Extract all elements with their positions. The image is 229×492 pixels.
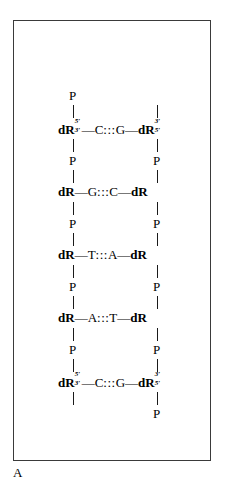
primes-left-5: 5′3′	[75, 374, 82, 387]
bond-below-pair-4-right	[157, 328, 158, 341]
bond-below-pair-3-left	[73, 265, 74, 278]
base-pair-row-2: dR — G ::: C — dR	[58, 185, 148, 199]
phosphate-right-4: P	[153, 343, 160, 356]
base-right-5: G	[116, 376, 125, 390]
phosphate-left-4: P	[69, 343, 76, 356]
base-right-2: C	[109, 185, 118, 199]
base-left-1: C	[95, 123, 104, 137]
sugar-left-1: dR5′3′	[58, 121, 82, 137]
bond-dash-right-4: —	[117, 311, 130, 325]
primes-right-5: 3′5′	[155, 374, 162, 387]
hydrogen-bonds-2: :::	[97, 185, 109, 199]
panel-label: A	[13, 466, 22, 479]
bond-above-pair-3-left	[73, 233, 74, 246]
bond-dash-left-4: —	[75, 311, 88, 325]
hydrogen-bonds-3: :::	[96, 248, 108, 262]
base-pair-row-1: dR5′3′ — C ::: G — dR3′5′	[58, 121, 162, 137]
hydrogen-bonds-5: :::	[103, 376, 115, 390]
figure-frame: P dR5′3′ — C ::: G — dR3′5′ P P dR — G :…	[13, 20, 211, 461]
base-pair-row-4: dR — A ::: T — dR	[58, 311, 147, 325]
sugar-right-1: dR3′5′	[138, 121, 162, 137]
bond-dash-right-1: —	[125, 123, 138, 137]
phosphate-right-3: P	[153, 280, 160, 293]
sugar-left-3: dR	[58, 248, 75, 262]
bond-dash-left-5: —	[82, 376, 95, 390]
sugar-left-2: dR	[58, 185, 75, 199]
phosphate-left-2: P	[69, 217, 76, 230]
hydrogen-bonds-4: :::	[97, 311, 109, 325]
base-left-2: G	[88, 185, 97, 199]
primes-right-1: 3′5′	[155, 121, 162, 134]
base-pair-row-3: dR — T ::: A — dR	[58, 248, 147, 262]
bond-below-pair-2-left	[73, 202, 74, 215]
base-right-1: G	[116, 123, 125, 137]
bond-below-pair-3-right	[157, 265, 158, 278]
base-left-4: A	[88, 311, 97, 325]
sugar-right-5: dR3′5′	[138, 374, 162, 390]
bond-above-pair-4-left	[73, 296, 74, 309]
base-left-5: C	[95, 376, 104, 390]
bond-above-pair-2-left	[73, 170, 74, 183]
sugar-left-5: dR5′3′	[58, 374, 82, 390]
bond-below-pair-1-right	[157, 139, 158, 152]
phosphate-right-2: P	[153, 217, 160, 230]
bond-bottom-left	[73, 392, 74, 405]
primes-left-1: 5′3′	[75, 121, 82, 134]
bond-dash-right-2: —	[118, 185, 131, 199]
bond-below-pair-1-left	[73, 139, 74, 152]
phosphate-bottom-right: P	[153, 407, 160, 420]
bond-dash-right-5: —	[125, 376, 138, 390]
bond-top-left	[73, 105, 74, 118]
bond-above-pair-4-right	[157, 296, 158, 309]
base-pair-row-5: dR5′3′ — C ::: G — dR3′5′	[58, 374, 162, 390]
bond-above-pair-3-right	[157, 233, 158, 246]
base-right-3: A	[108, 248, 117, 262]
bond-below-pair-4-left	[73, 328, 74, 341]
dna-ladder-diagram: P dR5′3′ — C ::: G — dR3′5′ P P dR — G :…	[14, 21, 210, 460]
bond-bottom-right	[157, 392, 158, 405]
phosphate-left-3: P	[69, 280, 76, 293]
hydrogen-bonds-1: :::	[103, 123, 115, 137]
bond-dash-right-3: —	[117, 248, 130, 262]
phosphate-left-1: P	[69, 154, 76, 167]
base-left-3: T	[88, 248, 96, 262]
bond-above-pair-2-right	[157, 170, 158, 183]
bond-dash-left-2: —	[75, 185, 88, 199]
bond-below-pair-2-right	[157, 202, 158, 215]
sugar-right-4: dR	[130, 311, 147, 325]
sugar-left-4: dR	[58, 311, 75, 325]
phosphate-top-left: P	[69, 89, 76, 102]
bond-dash-left-3: —	[75, 248, 88, 262]
bond-dash-left-1: —	[82, 123, 95, 137]
sugar-right-3: dR	[130, 248, 147, 262]
phosphate-right-1: P	[153, 154, 160, 167]
sugar-right-2: dR	[131, 185, 148, 199]
